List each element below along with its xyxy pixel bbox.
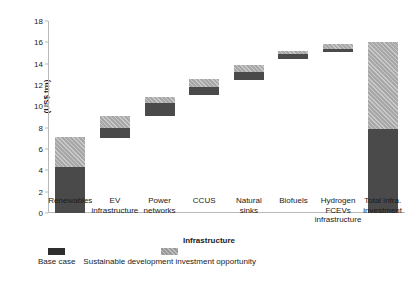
y-axis-tick-mark (45, 149, 48, 150)
bar-segment-investment-opportunity[interactable] (100, 116, 130, 128)
x-axis-title: Infrastructure (0, 236, 418, 245)
bar-segment-base-case[interactable] (278, 54, 308, 59)
y-axis-tick-label: 16 (3, 38, 48, 47)
bar-group[interactable] (323, 21, 353, 213)
y-axis-tick-mark (45, 127, 48, 128)
y-axis-tick-mark (45, 191, 48, 192)
x-axis-tick-label: Total infra.investment (346, 196, 418, 215)
legend-label: Base case (38, 257, 75, 266)
bar-segment-investment-opportunity[interactable] (368, 42, 398, 128)
legend-label: Sustainable development investment oppor… (83, 257, 256, 266)
y-axis-tick-label: 14 (3, 59, 48, 68)
y-axis-line (48, 21, 49, 213)
bar-segment-investment-opportunity[interactable] (145, 97, 175, 103)
infrastructure-investment-chart: (US$ trn) 024681012141618 Infrastructure… (0, 0, 418, 281)
bar-segment-base-case[interactable] (100, 128, 130, 139)
y-axis-tick-label: 6 (3, 145, 48, 154)
bar-group[interactable] (278, 21, 308, 213)
bar-segment-base-case[interactable] (323, 49, 353, 52)
x-axis-tick-label-line: networks (123, 206, 197, 216)
x-axis-tick-label-line: Total infra. (346, 196, 418, 206)
bar-segment-investment-opportunity[interactable] (278, 51, 308, 54)
bar-group[interactable] (55, 21, 85, 213)
y-axis-tick-label: 12 (3, 81, 48, 90)
legend-swatch-base (48, 248, 65, 255)
x-axis-tick-label-line: investment (346, 206, 418, 216)
legend-swatch-opp (161, 248, 178, 255)
y-axis-tick-label: 4 (3, 166, 48, 175)
y-axis-tick-mark (45, 21, 48, 22)
y-axis-tick-mark (45, 106, 48, 107)
y-axis-tick-label: 18 (3, 17, 48, 26)
bar-group[interactable] (100, 21, 130, 213)
plot-area: 024681012141618 (48, 21, 405, 213)
bar-segment-investment-opportunity[interactable] (189, 79, 219, 88)
bar-group[interactable] (189, 21, 219, 213)
x-axis-tick-label-line: sinks (212, 206, 286, 216)
y-axis-tick-mark (45, 42, 48, 43)
bar-group[interactable] (368, 21, 398, 213)
bar-segment-base-case[interactable] (234, 72, 264, 79)
y-axis-tick-mark (45, 85, 48, 86)
y-axis-tick-label: 8 (3, 123, 48, 132)
bar-segment-investment-opportunity[interactable] (55, 137, 85, 167)
legend-item[interactable]: Sustainable development investment oppor… (83, 248, 256, 266)
bar-group[interactable] (145, 21, 175, 213)
y-axis-tick-label: 2 (3, 187, 48, 196)
bar-segment-investment-opportunity[interactable] (323, 44, 353, 48)
y-axis-tick-label: 10 (3, 102, 48, 111)
bar-segment-base-case[interactable] (145, 103, 175, 116)
legend-item[interactable]: Base case (38, 248, 75, 266)
y-axis-tick-mark (45, 170, 48, 171)
x-axis-tick-label-line: infrastructure (301, 215, 375, 225)
y-axis-tick-mark (45, 63, 48, 64)
y-axis-tick-mark (45, 213, 48, 214)
bar-segment-base-case[interactable] (189, 87, 219, 94)
y-axis-tick-label: 0 (3, 209, 48, 218)
bar-segment-investment-opportunity[interactable] (234, 65, 264, 72)
bar-group[interactable] (234, 21, 264, 213)
chart-legend: Base caseSustainable development investm… (38, 248, 256, 266)
